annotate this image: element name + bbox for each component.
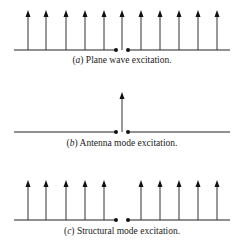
caption-a: (a) Plane wave excitation. xyxy=(0,55,244,65)
arrow-head-icon xyxy=(196,10,201,17)
caption-b: (b) Antenna mode excitation. xyxy=(0,138,244,148)
terminal-dot-icon xyxy=(114,218,118,222)
arrow-head-icon xyxy=(139,10,144,17)
arrow-head-icon xyxy=(26,180,31,187)
arrow-head-icon xyxy=(139,180,144,187)
arrow-head-icon xyxy=(44,180,49,187)
excitation-diagram xyxy=(0,0,244,244)
terminal-dot-icon xyxy=(114,48,118,52)
terminal-dot-icon xyxy=(114,130,118,134)
arrow-head-icon xyxy=(44,10,49,17)
arrow-head-icon xyxy=(215,10,220,17)
arrow-head-icon xyxy=(26,10,31,17)
arrow-head-icon xyxy=(102,10,107,17)
arrow-head-icon xyxy=(83,10,88,17)
arrow-head-icon xyxy=(120,92,125,99)
terminal-dot-icon xyxy=(126,218,130,222)
terminal-dot-icon xyxy=(126,48,130,52)
arrow-head-icon xyxy=(158,10,163,17)
arrow-head-icon xyxy=(120,10,125,17)
arrow-head-icon xyxy=(158,180,163,187)
arrow-head-icon xyxy=(64,10,69,17)
arrow-head-icon xyxy=(102,180,107,187)
arrow-head-icon xyxy=(215,180,220,187)
caption-c: (c) Structural mode excitation. xyxy=(0,226,244,236)
terminal-dot-icon xyxy=(126,130,130,134)
arrow-head-icon xyxy=(177,10,182,17)
arrow-head-icon xyxy=(196,180,201,187)
arrow-head-icon xyxy=(83,180,88,187)
arrow-head-icon xyxy=(64,180,69,187)
arrow-head-icon xyxy=(177,180,182,187)
